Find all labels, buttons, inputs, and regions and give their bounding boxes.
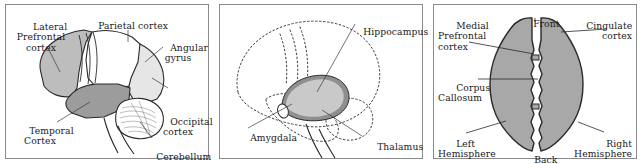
panel-superior-view: MedialPrefrontalcortex Front Cingulateco… (428, 0, 642, 164)
label-corpus-callosum: CorpusCallosum (438, 72, 490, 114)
panel-limbic-view: Hippocampus Amygdala Thalamus (214, 0, 428, 164)
label-amygdala: Amygdala (232, 122, 297, 154)
label-medial-prefrontal-cortex: MedialPrefrontalcortex (438, 10, 489, 63)
label-thalamus: Thalamus (359, 131, 423, 163)
label-lateral-prefrontal-cortex: LateralPrefrontalcortex (10, 11, 72, 64)
label-cingulate-cortex: Cingulatecortex (568, 10, 632, 52)
label-temporal-cortex: TemporalCortex (11, 115, 69, 157)
label-parietal-cortex: Parietal cortex (80, 10, 156, 42)
label-cerebellum: Cerebellum (138, 141, 204, 164)
label-hippocampus: Hippocampus (345, 16, 428, 48)
label-front: Front (515, 8, 555, 40)
label-left-hemisphere: LeftHemisphere (438, 128, 496, 164)
brain-anatomy-figure: LateralPrefrontalcortex Parietal cortex … (0, 0, 642, 164)
panel-lateral-view: LateralPrefrontalcortex Parietal cortex … (0, 0, 214, 164)
label-angular-gyrus: Angulargyrus (152, 32, 204, 74)
label-right-hemisphere: RightHemisphere (565, 128, 632, 164)
label-back: Back (516, 144, 556, 164)
